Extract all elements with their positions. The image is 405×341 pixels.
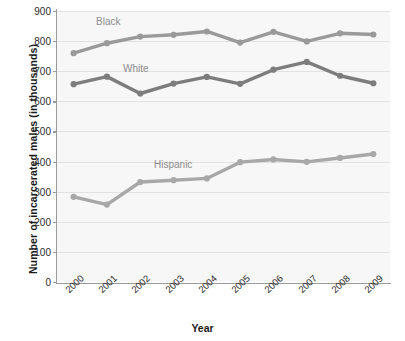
grid-line [57, 71, 390, 72]
y-tick-label: 200 [17, 216, 51, 227]
y-tick-mark [53, 131, 57, 132]
y-tick-mark [53, 41, 57, 42]
series-label-black: Black [96, 16, 120, 27]
grid-line [57, 162, 390, 163]
y-tick-label: 600 [17, 96, 51, 107]
series-label-white: White [123, 63, 149, 74]
y-tick-mark [53, 71, 57, 72]
y-tick-mark [53, 101, 57, 102]
y-tick-mark [53, 252, 57, 253]
y-tick-mark [53, 192, 57, 193]
grid-line [57, 252, 390, 253]
y-tick-label: 500 [17, 126, 51, 137]
grid-line [57, 41, 390, 42]
y-tick-mark [53, 282, 57, 283]
y-axis-line [56, 9, 57, 284]
y-tick-label: 900 [17, 6, 51, 17]
grid-line [57, 11, 390, 12]
plot-area [57, 11, 390, 282]
y-tick-mark [53, 162, 57, 163]
grid-line [57, 192, 390, 193]
y-tick-label: 400 [17, 156, 51, 167]
grid-line [57, 222, 390, 223]
y-tick-label: 300 [17, 186, 51, 197]
y-tick-mark [53, 11, 57, 12]
y-tick-label: 700 [17, 66, 51, 77]
y-tick-label: 800 [17, 36, 51, 47]
grid-line [57, 131, 390, 132]
y-tick-label: 100 [17, 246, 51, 257]
chart-container: Number of incarcerated males (in thousan… [0, 0, 405, 341]
x-axis-title: Year [0, 322, 405, 334]
grid-line [57, 101, 390, 102]
series-label-hispanic: Hispanic [154, 159, 192, 170]
y-tick-label: 0 [17, 277, 51, 288]
y-tick-mark [53, 222, 57, 223]
